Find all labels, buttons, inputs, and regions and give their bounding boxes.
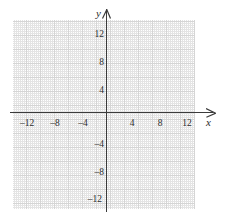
x-tick-label-neg4: –4 xyxy=(71,119,95,129)
y-tick-label-12: 12 xyxy=(82,30,104,40)
coordinate-grid-figure: y x 12 8 4 –4 –8 –12 –12 –8 –4 4 8 12 xyxy=(0,0,225,222)
y-axis-line xyxy=(106,9,107,212)
x-tick-label-neg12: –12 xyxy=(15,119,39,129)
x-tick-label-neg8: –8 xyxy=(43,119,67,129)
x-tick-label-8: 8 xyxy=(148,119,172,129)
y-tick-label-8: 8 xyxy=(82,58,104,68)
grid-minor xyxy=(13,20,195,209)
y-axis-arrow-icon xyxy=(100,5,113,15)
y-tick-label-neg12: –12 xyxy=(80,195,102,205)
x-tick-label-12: 12 xyxy=(175,119,199,129)
y-axis-label: y xyxy=(96,8,101,19)
x-tick-label-4: 4 xyxy=(120,119,144,129)
y-tick-label-neg8: –8 xyxy=(82,168,104,178)
x-axis-line xyxy=(10,112,213,113)
x-axis-label: x xyxy=(206,117,211,128)
y-tick-label-4: 4 xyxy=(82,86,104,96)
y-tick-label-neg4: –4 xyxy=(82,140,104,150)
